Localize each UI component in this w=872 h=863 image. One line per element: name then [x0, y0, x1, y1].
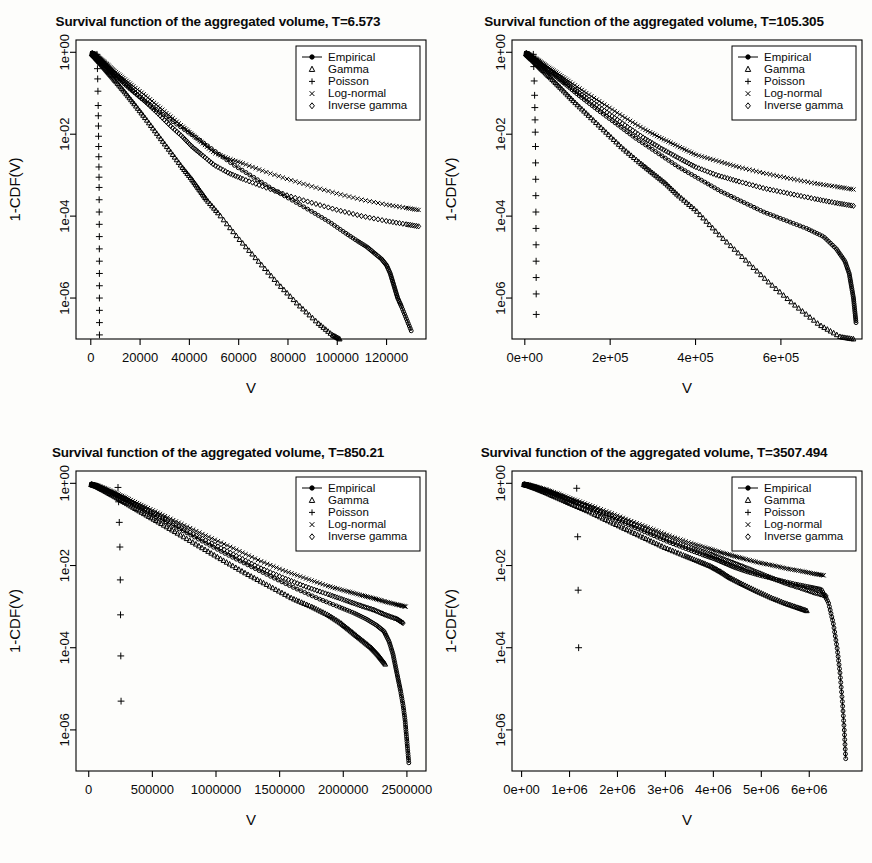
diamond-marker-icon	[347, 210, 351, 215]
cross-marker-icon	[318, 187, 322, 191]
plus-marker-icon	[96, 295, 103, 302]
y-tick-label: 1e-04	[493, 631, 508, 664]
y-tick-label: 1e+00	[57, 34, 72, 71]
plus-marker-icon	[96, 174, 103, 181]
diamond-marker-icon	[326, 205, 330, 210]
x-tick-label: 6e+05	[763, 350, 800, 365]
cross-marker-icon	[758, 170, 762, 174]
plus-marker-icon	[96, 245, 103, 252]
cross-marker-icon	[335, 191, 339, 195]
plus-marker-icon	[94, 76, 101, 83]
plus-marker-icon	[96, 196, 103, 203]
diamond-marker-icon	[355, 212, 359, 217]
legend-label: Poisson	[764, 75, 805, 87]
series-poisson	[94, 51, 103, 338]
plus-marker-icon	[96, 233, 103, 240]
plus-marker-icon	[96, 307, 103, 314]
y-tick-label: 1e-04	[57, 199, 72, 232]
plus-marker-icon	[116, 519, 123, 526]
x-tick-label: 500000	[131, 782, 174, 797]
plus-marker-icon	[95, 102, 102, 109]
legend: EmpiricalGammaPoissonLog-normalInverse g…	[296, 46, 420, 120]
diamond-marker-icon	[310, 200, 314, 205]
plus-marker-icon	[117, 544, 124, 551]
legend-label: Inverse gamma	[764, 530, 844, 542]
plus-marker-icon	[533, 225, 540, 232]
plus-marker-icon	[532, 176, 539, 183]
x-tick-label: 0e+00	[507, 350, 544, 365]
x-tick-label: 1000000	[191, 782, 242, 797]
x-tick-label: 0e+00	[503, 782, 540, 797]
plot-panel-1: Survival function of the aggregated volu…	[0, 0, 436, 431]
legend-label: Log-normal	[764, 87, 822, 99]
cross-marker-icon	[744, 167, 748, 171]
y-tick-label: 1e-06	[57, 713, 72, 746]
cross-marker-icon	[268, 171, 272, 175]
x-axis-label: V	[246, 379, 256, 396]
cross-marker-icon	[372, 200, 376, 204]
y-tick-label: 1e+00	[57, 465, 72, 502]
legend-label: Inverse gamma	[328, 530, 408, 542]
x-tick-label: 100000	[316, 350, 359, 365]
x-tick-label: 0	[87, 350, 94, 365]
cross-marker-icon	[737, 165, 741, 169]
diamond-marker-icon	[376, 217, 380, 222]
cross-marker-icon	[322, 188, 326, 192]
cross-marker-icon	[272, 173, 276, 177]
cross-marker-icon	[297, 181, 301, 185]
plus-marker-icon	[575, 587, 582, 594]
cross-marker-icon	[363, 198, 367, 202]
plus-marker-icon	[117, 577, 124, 584]
y-tick-label: 1e-02	[57, 549, 72, 582]
x-tick-label: 3e+06	[647, 782, 684, 797]
plus-marker-icon	[533, 209, 540, 216]
cross-marker-icon	[339, 192, 343, 196]
plot-canvas: 1e+001e-021e-041e-061-CDF(V)050000010000…	[0, 431, 436, 863]
cross-marker-icon	[351, 195, 355, 199]
plus-marker-icon	[117, 653, 124, 660]
cross-marker-icon	[747, 168, 751, 172]
y-tick-label: 1e-06	[57, 281, 72, 314]
plot-panel-3: Survival function of the aggregated volu…	[0, 431, 436, 863]
plus-marker-icon	[575, 644, 582, 651]
y-tick-label: 1e+00	[493, 465, 508, 502]
cross-marker-icon	[751, 168, 755, 172]
x-tick-label: 1e+06	[551, 782, 588, 797]
diamond-marker-icon	[339, 208, 343, 213]
x-tick-label: 2e+05	[592, 350, 629, 365]
x-tick-label: 60000	[221, 350, 257, 365]
plus-marker-icon	[95, 133, 102, 140]
y-tick-label: 1e-02	[57, 118, 72, 151]
empirical-line-circle-icon	[310, 486, 314, 490]
cross-marker-icon	[740, 166, 744, 170]
diamond-marker-icon	[368, 215, 372, 220]
cross-marker-icon	[293, 179, 297, 183]
y-axis-label: 1-CDF(V)	[6, 589, 23, 653]
y-tick-label: 1e-04	[493, 199, 508, 232]
legend-label: Gamma	[328, 494, 370, 506]
legend-label: Gamma	[764, 63, 806, 75]
legend: EmpiricalGammaPoissonLog-normalInverse g…	[732, 477, 856, 551]
plus-marker-icon	[533, 241, 540, 248]
legend-label: Log-normal	[328, 518, 386, 530]
plus-marker-icon	[96, 282, 103, 289]
x-tick-label: 20000	[122, 350, 158, 365]
y-tick-label: 1e-06	[493, 281, 508, 314]
x-tick-label: 0	[85, 782, 92, 797]
plus-marker-icon	[533, 311, 540, 318]
plot-canvas: 1e+001e-021e-041e-061-CDF(V)020000400006…	[0, 0, 436, 431]
legend-label: Empirical	[328, 482, 375, 494]
y-tick-label: 1e-06	[493, 713, 508, 746]
legend-label: Empirical	[764, 482, 811, 494]
diamond-marker-icon	[301, 198, 305, 203]
legend-label: Gamma	[328, 63, 370, 75]
x-tick-label: 4e+05	[677, 350, 714, 365]
y-tick-label: 1e-02	[493, 549, 508, 582]
diamond-marker-icon	[318, 203, 322, 208]
x-tick-label: 2e+06	[599, 782, 636, 797]
legend-label: Inverse gamma	[764, 99, 844, 111]
cross-marker-icon	[754, 169, 758, 173]
plus-marker-icon	[96, 184, 103, 191]
plus-marker-icon	[96, 258, 103, 265]
plus-marker-icon	[96, 270, 103, 277]
